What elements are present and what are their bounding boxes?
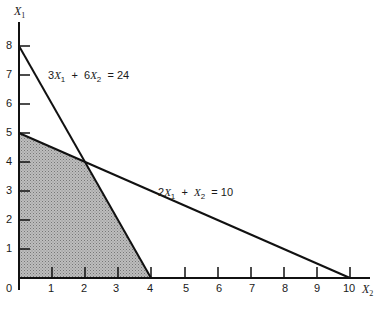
x-tick-label: 10 — [343, 282, 355, 294]
y-tick-label: 1 — [6, 242, 12, 254]
x-tick-label: 0 — [6, 282, 12, 294]
x-axis-title: X2 — [362, 282, 373, 298]
y-tick-label: 7 — [6, 68, 12, 80]
y-tick-label: 3 — [6, 184, 12, 196]
constraint-label-1: 3X1 + 6X2 = 24 — [48, 69, 129, 84]
y-axis-title: X1 — [14, 4, 25, 20]
x-tick-label: 8 — [282, 282, 288, 294]
x-tick-label: 7 — [249, 282, 255, 294]
y-tick-label: 5 — [6, 126, 12, 138]
x-tick-label: 9 — [314, 282, 320, 294]
x-tick-label: 6 — [216, 282, 222, 294]
x-tick-label: 2 — [81, 282, 87, 294]
y-tick-label: 4 — [6, 155, 12, 167]
y-tick-label: 6 — [6, 97, 12, 109]
x-tick-label: 4 — [147, 282, 153, 294]
constraint-label-2: 2X1 + X2 = 10 — [158, 186, 233, 201]
feasible-region — [19, 133, 151, 278]
plot-canvas — [0, 0, 386, 325]
y-tick-label: 2 — [6, 213, 12, 225]
x-tick-label: 5 — [183, 282, 189, 294]
x-tick-label: 3 — [113, 282, 119, 294]
y-tick-label: 8 — [6, 39, 12, 51]
x-tick-label: 1 — [48, 282, 54, 294]
